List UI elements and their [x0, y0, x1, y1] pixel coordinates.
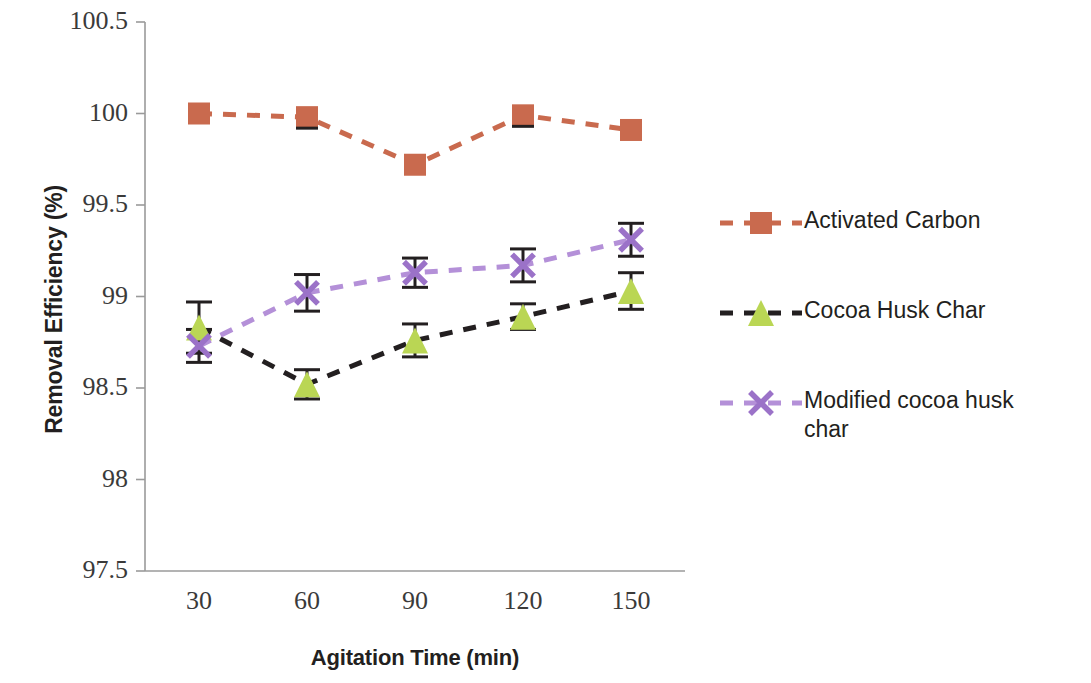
marker-square [750, 212, 772, 234]
legend-label: Modified cocoa husk char [804, 386, 1056, 444]
legend-label: Cocoa Husk Char [804, 296, 986, 325]
legend-marker-icon [718, 208, 804, 238]
chart-figure: Removal Efficiency (%) 97.59898.59999.51… [0, 0, 1091, 683]
legend-label: Activated Carbon [804, 206, 980, 235]
legend-marker-icon [718, 298, 804, 328]
chart-legend: Activated CarbonCocoa Husk CharModified … [718, 206, 1078, 502]
series-0 [188, 103, 642, 176]
legend-marker-icon [718, 388, 804, 418]
marker-square [296, 106, 318, 128]
legend-item[interactable]: Modified cocoa husk char [718, 386, 1078, 444]
legend-item[interactable]: Activated Carbon [718, 206, 1078, 238]
marker-square [620, 119, 642, 141]
legend-item[interactable]: Cocoa Husk Char [718, 296, 1078, 328]
marker-square [512, 104, 534, 126]
legend-swatch-x-icon [718, 388, 804, 418]
marker-triangle [294, 371, 320, 397]
marker-triangle [618, 278, 644, 304]
marker-square [188, 103, 210, 125]
legend-swatch-square-icon [718, 208, 804, 238]
series-1 [186, 278, 644, 397]
marker-square [404, 154, 426, 176]
legend-swatch-triangle-icon [718, 298, 804, 328]
